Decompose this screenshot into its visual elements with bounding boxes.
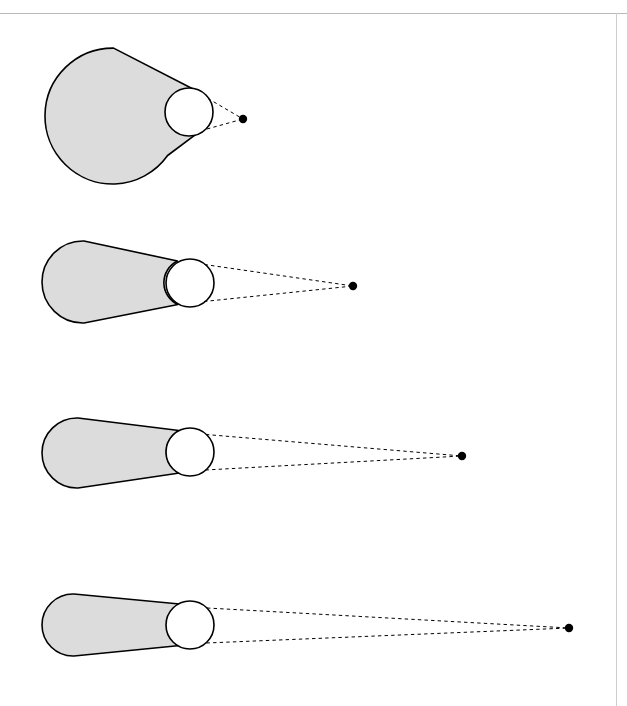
hull-region-2	[42, 241, 178, 323]
apex-point-3	[458, 452, 466, 460]
inner-circle-2	[166, 259, 214, 307]
tangent-line-upper-2	[205, 265, 354, 287]
document-page	[0, 0, 627, 706]
hull-region-3	[42, 418, 180, 488]
inner-circle-3	[166, 428, 214, 476]
apex-point-4	[565, 624, 573, 632]
apex-point-2	[349, 282, 357, 290]
figure-panel-4	[42, 594, 573, 656]
figure-panel-2	[42, 241, 357, 323]
tangent-line-lower-4	[207, 628, 570, 643]
geometry-figure	[0, 0, 627, 706]
inner-circle-1	[165, 88, 213, 136]
figure-panel-1	[45, 48, 247, 184]
hull-region-4	[42, 594, 180, 656]
tangent-line-upper-4	[207, 608, 569, 628]
tangent-line-lower-1	[207, 119, 243, 129]
inner-circle-4	[166, 601, 214, 649]
apex-point-1	[239, 115, 247, 123]
figure-panel-3	[42, 418, 466, 488]
tangent-line-upper-3	[206, 435, 462, 457]
tangent-line-lower-2	[204, 286, 353, 302]
tangent-line-lower-3	[206, 456, 463, 470]
